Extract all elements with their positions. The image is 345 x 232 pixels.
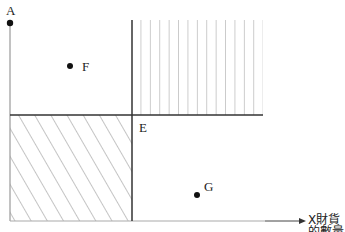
lower-left-region xyxy=(10,115,132,221)
point-a-dot xyxy=(7,20,13,26)
label-a: A xyxy=(6,4,15,17)
diagram-canvas xyxy=(0,0,345,232)
label-e: E xyxy=(139,121,147,134)
label-g: G xyxy=(204,180,213,193)
point-g-dot xyxy=(194,192,200,198)
label-f: F xyxy=(82,60,89,73)
arrow-head-icon xyxy=(299,218,306,224)
x-axis-label: X財貨的數量 xyxy=(308,214,345,232)
upper-right-region xyxy=(133,20,263,115)
point-f-dot xyxy=(67,63,73,69)
